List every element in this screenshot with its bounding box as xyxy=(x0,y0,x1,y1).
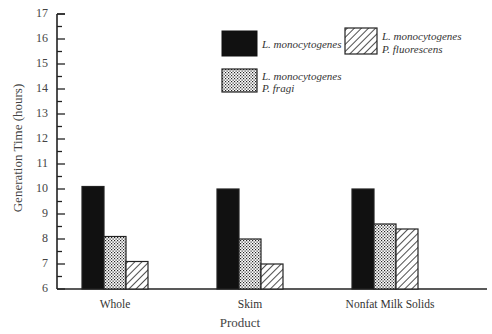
y-tick-label: 11 xyxy=(28,156,48,171)
y-tick-label: 10 xyxy=(28,181,48,196)
bars xyxy=(82,187,418,290)
y-tick-label: 17 xyxy=(28,6,48,21)
category-label-whole: Whole xyxy=(80,298,150,310)
bar xyxy=(104,237,126,290)
y-tick-label: 13 xyxy=(28,106,48,121)
y-tick-label: 14 xyxy=(28,81,48,96)
y-axis-label: Generation Time (hours) xyxy=(10,78,26,218)
bar xyxy=(82,187,104,290)
legend-label-2a: L. monocytogenes xyxy=(382,30,461,42)
y-tick-label: 8 xyxy=(28,231,48,246)
y-tick-label: 6 xyxy=(28,281,48,296)
bar xyxy=(352,189,374,289)
bar xyxy=(374,224,396,289)
legend-label-3b: P. fragi xyxy=(262,82,294,94)
y-tick-label: 15 xyxy=(28,56,48,71)
bar xyxy=(261,264,283,289)
legend-label-3a: L. monocytogenes xyxy=(262,70,341,82)
bar xyxy=(126,262,148,290)
bar xyxy=(239,239,261,289)
legend-label-2b: P. fluorescens xyxy=(382,43,443,55)
x-axis-label: Product xyxy=(190,315,290,331)
y-axis-ticks xyxy=(57,14,65,289)
legend-swatch-dots xyxy=(222,69,257,92)
legend-swatch-hatch xyxy=(345,28,377,54)
category-label-skim: Skim xyxy=(215,298,285,310)
y-tick-label: 7 xyxy=(28,256,48,271)
y-tick-label: 12 xyxy=(28,131,48,146)
bar xyxy=(396,229,418,289)
y-tick-label: 16 xyxy=(28,31,48,46)
legend-swatch-solid xyxy=(222,31,257,56)
y-tick-label: 9 xyxy=(28,206,48,221)
bar xyxy=(217,189,239,289)
category-label-nonfat: Nonfat Milk Solids xyxy=(335,298,445,310)
legend-label-1: L. monocytogenes xyxy=(262,38,341,50)
